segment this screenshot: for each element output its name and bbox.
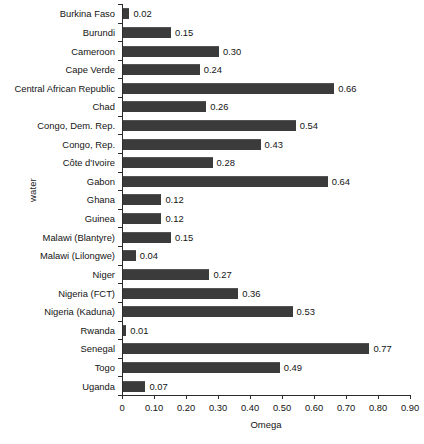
y-axis-tick [118,41,122,42]
category-label: Cameroon [0,46,115,57]
bar-value-label: 0.04 [140,250,158,261]
bar-row: Burkina Faso0.02 [122,4,410,23]
bar-value-label: 0.54 [300,120,318,131]
y-axis-tick [118,209,122,210]
bar-row: Senegal0.77 [122,339,410,358]
x-axis-tick [378,395,379,399]
y-axis-title: water [27,160,41,220]
y-axis-tick [118,283,122,284]
bar-row: Nigeria (FCT)0.36 [122,283,410,302]
y-axis-tick [118,302,122,303]
bar-value-label: 0.07 [149,381,167,392]
bar [123,139,261,150]
bar-row: Guinea0.12 [122,209,410,228]
category-label: Burundi [0,27,115,38]
bar-value-label: 0.30 [223,46,241,57]
category-label: Burkina Faso [0,8,115,19]
bar-value-label: 0.15 [175,27,193,38]
bar-value-label: 0.64 [332,176,350,187]
x-axis-tick [346,395,347,399]
bar-value-label: 0.36 [242,288,260,299]
y-axis-tick [118,153,122,154]
bar-row: Congo, Rep.0.43 [122,134,410,153]
bar [123,269,209,280]
bar [123,46,219,57]
bar-value-label: 0.28 [217,157,235,168]
category-label: Nigeria (Kaduna) [0,306,115,317]
bar-row: Cameroon0.30 [122,41,410,60]
y-axis-tick [118,190,122,191]
bar-row: Nigeria (Kaduna)0.53 [122,302,410,321]
category-label: Nigeria (FCT) [0,288,115,299]
bar-value-label: 0.53 [297,306,315,317]
bar-value-label: 0.24 [204,64,222,75]
category-label: Central African Republic [0,83,115,94]
x-axis-tick-label: 0.90 [390,402,424,413]
bar-row: Cape Verde0.24 [122,60,410,79]
category-label: Congo, Rep. [0,139,115,150]
x-axis-tick [410,395,411,399]
x-axis-line [122,395,411,396]
bar-row: Chad0.26 [122,97,410,116]
x-axis-tick [282,395,283,399]
bar-row: Central African Republic0.66 [122,78,410,97]
bar-row: Niger0.27 [122,265,410,284]
bar-row: Uganda0.07 [122,376,410,395]
bar-value-label: 0.12 [165,194,183,205]
y-axis-tick [118,227,122,228]
bar-row: Congo, Dem. Rep.0.54 [122,116,410,135]
y-axis-tick [118,134,122,135]
bar-value-label: 0.49 [284,362,302,373]
bar-row: Côte d'Ivoire0.28 [122,153,410,172]
x-axis-tick [250,395,251,399]
category-label: Ghana [0,194,115,205]
y-axis-tick [118,60,122,61]
bar-row: Rwanda0.01 [122,321,410,340]
bar-row: Malawi (Blantyre)0.15 [122,227,410,246]
x-axis-tick [186,395,187,399]
bar-value-label: 0.43 [265,139,283,150]
category-label: Malawi (Lilongwe) [0,250,115,261]
category-label: Cape Verde [0,64,115,75]
y-axis-tick [118,116,122,117]
bar [123,362,280,373]
y-axis-tick [118,4,122,5]
category-label: Malawi (Blantyre) [0,232,115,243]
bar [123,64,200,75]
x-axis-title: Omega [122,419,410,430]
x-axis-tick [314,395,315,399]
y-axis-tick [118,376,122,377]
bar [123,213,161,224]
y-axis-tick [118,78,122,79]
y-axis-tick [118,172,122,173]
y-axis-tick [118,23,122,24]
bar-value-label: 0.26 [210,101,228,112]
y-axis-tick [118,358,122,359]
category-label: Rwanda [0,325,115,336]
bar-value-label: 0.27 [213,269,231,280]
category-label: Senegal [0,343,115,354]
category-label: Gabon [0,176,115,187]
bar [123,250,136,261]
x-axis-tick [218,395,219,399]
y-axis-tick [118,339,122,340]
bar-value-label: 0.15 [175,232,193,243]
y-axis-tick [118,97,122,98]
bar [123,176,328,187]
bar-value-label: 0.66 [338,83,356,94]
category-label: Niger [0,269,115,280]
bar-value-label: 0.02 [133,8,151,19]
bar [123,27,171,38]
bar [123,343,369,354]
x-axis-tick [122,395,123,399]
bar [123,157,213,168]
y-axis-tick [118,246,122,247]
bar-row: Gabon0.64 [122,172,410,191]
bar-value-label: 0.12 [165,213,183,224]
category-label: Congo, Dem. Rep. [0,120,115,131]
category-label: Togo [0,362,115,373]
category-label: Guinea [0,213,115,224]
bar [123,325,126,336]
category-label: Côte d'Ivoire [0,157,115,168]
bar [123,83,334,94]
